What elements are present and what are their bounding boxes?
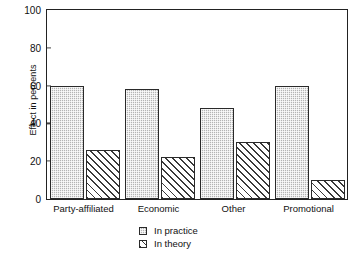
- legend-item-in-theory: In theory: [139, 237, 198, 250]
- y-axis-tick-label: 60: [30, 80, 47, 91]
- x-axis-category-label: Economic: [138, 203, 180, 214]
- legend-label-in-theory: In theory: [154, 239, 191, 249]
- y-axis-tick-mark: [47, 47, 51, 48]
- y-axis-tick-label: 0: [35, 194, 47, 205]
- bar-economic-in-practice: [125, 89, 159, 199]
- y-axis-tick-label: 20: [30, 156, 47, 167]
- bar-other-in-practice: [200, 108, 234, 199]
- y-axis-tick-label: 100: [24, 5, 47, 16]
- y-axis-tick-label: 40: [30, 118, 47, 129]
- bar-party-affiliated-in-practice: [50, 86, 84, 199]
- x-axis-category-label: Party-affiliated: [53, 203, 114, 214]
- bar-other-in-theory: [236, 142, 270, 199]
- legend-label-in-practice: In practice: [154, 226, 198, 236]
- chart-legend: In practice In theory: [139, 224, 198, 250]
- plot-area: 020406080100: [46, 9, 348, 200]
- y-axis-tick-label: 80: [30, 42, 47, 53]
- bar-chart-figure: Effect in percents 020406080100 In pract…: [0, 0, 362, 254]
- bar-economic-in-theory: [161, 157, 195, 199]
- bar-promotional-in-theory: [311, 180, 345, 199]
- legend-swatch-in-theory: [139, 240, 147, 248]
- x-axis-category-label: Promotional: [283, 203, 334, 214]
- bar-promotional-in-practice: [275, 86, 309, 199]
- bar-party-affiliated-in-theory: [86, 150, 120, 199]
- legend-item-in-practice: In practice: [139, 224, 198, 237]
- x-axis-category-label: Other: [222, 203, 246, 214]
- legend-swatch-in-practice: [139, 227, 147, 235]
